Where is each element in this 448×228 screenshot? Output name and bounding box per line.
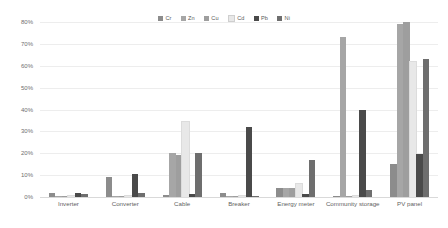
bar-ni[interactable] (423, 59, 430, 197)
y-axis-tick-label: 70% (21, 41, 33, 47)
legend-swatch-icon (228, 15, 235, 22)
bar-zn[interactable] (340, 37, 347, 197)
bar-pb[interactable] (359, 110, 366, 198)
bar-group-pv-panel (381, 22, 438, 197)
legend-swatch-icon (277, 16, 282, 21)
x-axis-label: Energy meter (267, 199, 324, 219)
bar-pb[interactable] (246, 127, 253, 197)
legend-label: Zn (188, 15, 195, 21)
legend-item-pb[interactable]: Pb (254, 15, 269, 21)
plot-area (40, 22, 438, 197)
y-axis-tick-label: 30% (21, 128, 33, 134)
bar-ni[interactable] (252, 196, 259, 197)
legend-label: Cd (237, 15, 244, 21)
gridline (40, 197, 438, 198)
bar-cr[interactable] (106, 177, 113, 197)
bar-group-energy-meter (267, 22, 324, 197)
y-axis-tick-label: 50% (21, 85, 33, 91)
legend-swatch-icon (181, 16, 186, 21)
bar-ni[interactable] (366, 190, 373, 197)
legend-item-cd[interactable]: Cd (228, 15, 245, 22)
x-axis-label: Converter (97, 199, 154, 219)
bars (97, 22, 154, 197)
bar-ni[interactable] (81, 194, 88, 197)
x-axis-label: Community storage (324, 199, 381, 219)
x-axis: InverterConverterCableBreakerEnergy mete… (40, 199, 438, 219)
y-axis-tick-label: 20% (21, 150, 33, 156)
bar-group-inverter (40, 22, 97, 197)
bars (381, 22, 438, 197)
bar-group-cable (154, 22, 211, 197)
bar-ni[interactable] (309, 160, 316, 197)
bar-ni[interactable] (195, 153, 202, 197)
y-axis-tick-label: 0% (24, 194, 33, 200)
legend-item-cr[interactable]: Cr (158, 15, 172, 21)
y-axis: 0%10%20%30%40%50%60%70%80% (0, 22, 38, 197)
bar-groups (40, 22, 438, 197)
legend-item-zn[interactable]: Zn (181, 15, 195, 21)
legend-swatch-icon (204, 16, 209, 21)
legend-item-cu[interactable]: Cu (204, 15, 219, 21)
legend-label: Ni (285, 15, 290, 21)
bars (324, 22, 381, 197)
x-axis-label: Inverter (40, 199, 97, 219)
bars (154, 22, 211, 197)
y-axis-tick-label: 60% (21, 63, 33, 69)
x-axis-label: PV panel (381, 199, 438, 219)
legend-swatch-icon (158, 16, 163, 21)
legend-label: Cr (165, 15, 171, 21)
bars (40, 22, 97, 197)
y-axis-tick-label: 10% (21, 172, 33, 178)
bars (267, 22, 324, 197)
y-axis-tick-label: 80% (21, 19, 33, 25)
legend-item-ni[interactable]: Ni (277, 15, 290, 21)
bar-group-community-storage (324, 22, 381, 197)
bars (211, 22, 268, 197)
bar-group-converter (97, 22, 154, 197)
bar-chart: CrZnCuCdPbNi 0%10%20%30%40%50%60%70%80% … (0, 0, 448, 228)
legend-label: Pb (261, 15, 268, 21)
y-axis-tick-label: 40% (21, 107, 33, 113)
legend-swatch-icon (254, 16, 259, 21)
bar-cd[interactable] (182, 122, 189, 197)
x-axis-label: Breaker (211, 199, 268, 219)
bar-ni[interactable] (138, 193, 145, 197)
x-axis-label: Cable (154, 199, 211, 219)
bar-group-breaker (211, 22, 268, 197)
legend-label: Cu (211, 15, 218, 21)
